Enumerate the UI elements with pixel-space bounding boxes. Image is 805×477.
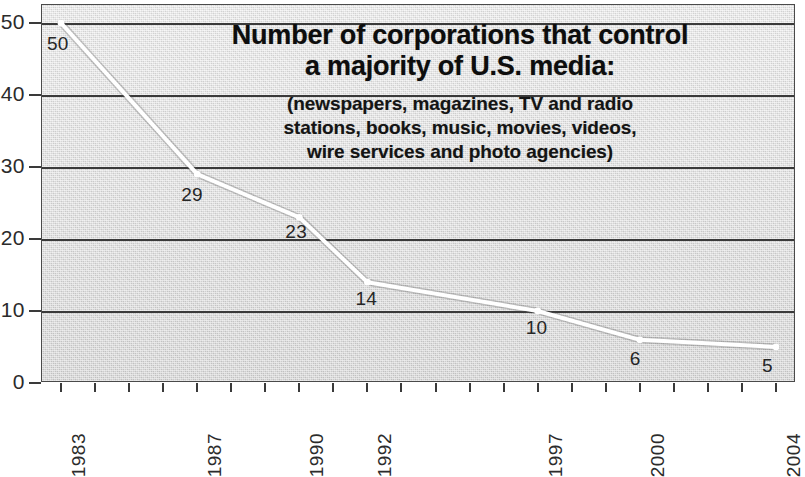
y-tick-20	[29, 238, 41, 240]
y-tick-30	[29, 166, 41, 168]
x-tick-2000	[639, 383, 641, 392]
data-label-1997: 10	[526, 317, 548, 339]
x-tick-1989	[264, 383, 266, 392]
x-tick-1996	[503, 383, 505, 392]
x-tick-label-1987: 1987	[204, 433, 226, 477]
x-tick-1997	[537, 383, 539, 392]
data-label-1987: 29	[181, 184, 203, 206]
data-label-2000: 6	[630, 348, 641, 370]
x-tick-1984	[94, 383, 96, 392]
y-tick-label-30: 30	[1, 154, 25, 178]
data-point-1997	[534, 308, 541, 315]
y-tick-label-40: 40	[1, 82, 25, 106]
x-tick-label-1992: 1992	[374, 433, 396, 477]
x-tick-2004	[775, 383, 777, 392]
x-tick-label-1983: 1983	[68, 433, 90, 477]
data-point-1987	[194, 171, 201, 178]
data-point-2004	[773, 344, 780, 351]
y-axis: 01020304050	[0, 0, 41, 435]
x-tick-1992	[366, 383, 368, 392]
data-label-2004: 5	[762, 355, 773, 377]
data-label-1983: 50	[47, 33, 69, 55]
x-tick-1999	[605, 383, 607, 392]
data-point-1992	[364, 279, 371, 286]
x-tick-1987	[196, 383, 198, 392]
x-axis-labels: 1983198719901992199720002004	[0, 392, 797, 435]
series-line	[61, 23, 776, 347]
data-label-1992: 14	[355, 288, 377, 310]
y-tick-label-10: 10	[1, 298, 25, 322]
x-tick-1998	[571, 383, 573, 392]
x-tick-label-2004: 2004	[783, 433, 805, 477]
x-tick-1990	[298, 383, 300, 392]
data-series-line	[42, 5, 795, 382]
data-point-1983	[58, 20, 65, 27]
plot-area: 502923141065	[41, 4, 795, 382]
x-tick-1993	[400, 383, 402, 392]
x-tick-1986	[162, 383, 164, 392]
x-tick-2003	[741, 383, 743, 392]
y-tick-40	[29, 94, 41, 96]
y-tick-label-20: 20	[1, 226, 25, 250]
x-tick-1994	[435, 383, 437, 392]
x-tick-1988	[230, 383, 232, 392]
data-point-1990	[296, 214, 303, 221]
y-tick-label-50: 50	[1, 10, 25, 34]
x-tick-1983	[60, 383, 62, 392]
x-tick-2002	[707, 383, 709, 392]
series-line-halo	[61, 23, 776, 347]
x-tick-1991	[332, 383, 334, 392]
y-tick-50	[29, 22, 41, 24]
data-point-2000	[636, 336, 643, 343]
x-tick-label-1997: 1997	[545, 433, 567, 477]
x-tick-label-1990: 1990	[306, 433, 328, 477]
x-tick-1985	[128, 383, 130, 392]
data-label-1990: 23	[285, 221, 307, 243]
y-tick-10	[29, 310, 41, 312]
x-tick-1995	[469, 383, 471, 392]
x-tick-label-2000: 2000	[647, 433, 669, 477]
x-tick-2001	[673, 383, 675, 392]
